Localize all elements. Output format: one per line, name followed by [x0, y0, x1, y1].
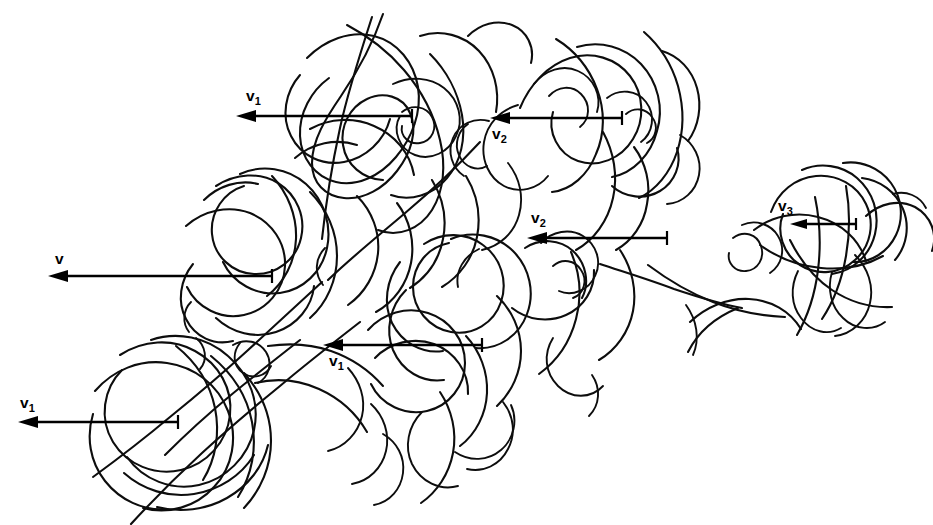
vector-label-subscript: 2	[540, 217, 546, 229]
vector-label-v-plain-left: v	[55, 250, 64, 267]
vector-label-subscript: 1	[29, 402, 35, 414]
vector-label-subscript: 1	[338, 360, 344, 372]
figure-canvas: v1 v2 v3 v2	[0, 0, 933, 525]
vector-label-subscript: 1	[255, 95, 261, 107]
polymer-chain-figure: v1 v2 v3 v2	[0, 0, 933, 525]
vector-label-subscript: 2	[501, 133, 507, 145]
vector-label-subscript: 3	[787, 205, 793, 217]
